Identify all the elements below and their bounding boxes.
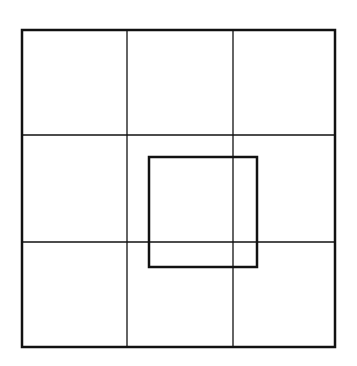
background — [0, 0, 357, 366]
grid-diagram — [0, 0, 357, 366]
